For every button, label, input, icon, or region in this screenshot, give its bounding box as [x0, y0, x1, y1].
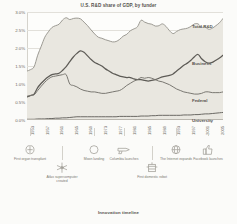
timeline-connector	[94, 128, 95, 136]
timeline-event-label: First organ transplant	[10, 157, 50, 161]
timeline-event-label: First domestic robot	[132, 175, 172, 179]
supercomputer-icon	[54, 160, 70, 174]
timeline-connector	[124, 128, 125, 136]
timeline-connector	[62, 146, 63, 160]
series-label-university: University	[192, 118, 213, 123]
page-title: U.S. R&D share of GDP, by funder	[0, 3, 237, 8]
timeline-connector	[30, 128, 31, 136]
x-axis-tick-label: 1997	[191, 126, 196, 135]
y-axis: 3.0%2.5%2.0%1.5%1.0%0.5%0.0%	[0, 12, 25, 120]
series-label-federal: Federal	[192, 98, 207, 103]
y-axis-tick-label: 0.5%	[0, 100, 25, 105]
timeline-event-label: Columbia launches	[104, 157, 144, 161]
series-label-business: Business	[192, 61, 211, 66]
x-axis-tick-label: 1957	[45, 126, 50, 135]
kidney-icon	[22, 142, 38, 156]
x-axis-tick-label: 1985	[147, 126, 152, 135]
chart-page: U.S. R&D share of GDP, by funder 3.0%2.5…	[0, 0, 237, 224]
timeline-event-label: Atlas supercomputer created	[42, 175, 82, 184]
shuttle-icon	[116, 142, 132, 156]
thumbs-up-icon	[200, 142, 216, 156]
timeline-event-label: Facebook launches	[188, 157, 228, 161]
x-axis-tick-label: 1973	[103, 126, 108, 135]
x-axis-tick-label: 2005	[220, 126, 225, 135]
robot-icon	[144, 160, 160, 174]
y-axis-tick-label: 3.0%	[0, 10, 25, 15]
moon-icon	[86, 142, 102, 156]
series-area-total-r-d	[27, 18, 223, 120]
timeline-connector	[152, 146, 153, 160]
y-axis-tick-label: 2.5%	[0, 28, 25, 33]
x-axis-tick-label: 1969	[88, 126, 93, 135]
x-axis-tick-label: 1961	[59, 126, 64, 135]
y-axis-tick-label: 0.0%	[0, 118, 25, 123]
globe-icon	[168, 142, 184, 156]
innovation-timeline: Innovation timeline First organ transpla…	[0, 136, 237, 224]
x-axis-tick-label: 1977	[118, 126, 123, 135]
x-axis-tick-label: 1989	[162, 126, 167, 135]
y-axis-tick-label: 1.5%	[0, 64, 25, 69]
series-label-total-r-d: Total R&D	[192, 24, 213, 29]
timeline-connector	[176, 128, 177, 136]
y-axis-tick-label: 1.0%	[0, 82, 25, 87]
timeline-title: Innovation timeline	[0, 210, 237, 215]
y-axis-tick-label: 2.0%	[0, 46, 25, 51]
x-axis-tick-label: 1981	[132, 126, 137, 135]
x-axis-tick-label: 1965	[74, 126, 79, 135]
timeline-connector	[208, 128, 209, 136]
